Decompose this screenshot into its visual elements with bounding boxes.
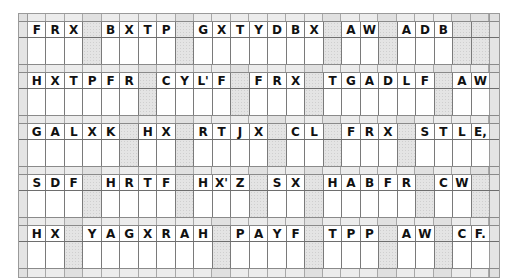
answer-cell[interactable] bbox=[157, 89, 175, 115]
answer-cell[interactable] bbox=[231, 242, 249, 268]
answer-cell[interactable] bbox=[213, 140, 231, 166]
answer-cell[interactable] bbox=[65, 191, 83, 217]
answer-cell[interactable] bbox=[324, 242, 342, 268]
answer-cell[interactable] bbox=[157, 191, 175, 217]
answer-cell[interactable] bbox=[250, 89, 268, 115]
answer-cell[interactable] bbox=[250, 140, 268, 166]
answer-cell[interactable] bbox=[28, 89, 46, 115]
answer-cell[interactable] bbox=[231, 38, 249, 64]
answer-cell[interactable] bbox=[65, 38, 83, 64]
answer-cell[interactable] bbox=[268, 38, 286, 64]
answer-cell[interactable] bbox=[102, 38, 120, 64]
answer-cell[interactable] bbox=[120, 242, 138, 268]
answer-cell[interactable] bbox=[361, 89, 379, 115]
answer-cell[interactable] bbox=[194, 89, 212, 115]
answer-cell[interactable] bbox=[472, 89, 489, 115]
answer-cell[interactable] bbox=[435, 38, 453, 64]
answer-cell[interactable] bbox=[139, 140, 157, 166]
answer-cell[interactable] bbox=[268, 89, 286, 115]
answer-cell[interactable] bbox=[83, 140, 101, 166]
answer-cell[interactable] bbox=[176, 242, 194, 268]
answer-cell[interactable] bbox=[342, 191, 360, 217]
answer-cell[interactable] bbox=[231, 140, 249, 166]
word-gap-cell bbox=[379, 242, 397, 268]
answer-cell[interactable] bbox=[342, 89, 360, 115]
answer-cell[interactable] bbox=[157, 38, 175, 64]
answer-cell[interactable] bbox=[102, 242, 120, 268]
answer-cell[interactable] bbox=[416, 89, 434, 115]
answer-cell[interactable] bbox=[250, 38, 268, 64]
answer-cell[interactable] bbox=[287, 89, 305, 115]
answer-cell[interactable] bbox=[83, 242, 101, 268]
answer-cell[interactable] bbox=[435, 140, 453, 166]
answer-cell[interactable] bbox=[287, 242, 305, 268]
answer-cell[interactable] bbox=[453, 242, 471, 268]
answer-cell[interactable] bbox=[139, 38, 157, 64]
answer-cell[interactable] bbox=[453, 191, 471, 217]
answer-cell[interactable] bbox=[287, 38, 305, 64]
answer-cell[interactable] bbox=[194, 242, 212, 268]
answer-cell[interactable] bbox=[157, 242, 175, 268]
answer-cell[interactable] bbox=[416, 38, 434, 64]
answer-cell[interactable] bbox=[324, 89, 342, 115]
answer-cell[interactable] bbox=[46, 140, 64, 166]
answer-cell[interactable] bbox=[102, 89, 120, 115]
answer-cell[interactable] bbox=[416, 242, 434, 268]
answer-cell[interactable] bbox=[194, 38, 212, 64]
answer-cell[interactable] bbox=[379, 140, 397, 166]
answer-cell[interactable] bbox=[46, 191, 64, 217]
answer-cell[interactable] bbox=[472, 140, 489, 166]
answer-cell[interactable] bbox=[46, 89, 64, 115]
answer-cell[interactable] bbox=[287, 191, 305, 217]
answer-cell[interactable] bbox=[250, 242, 268, 268]
answer-cell[interactable] bbox=[324, 191, 342, 217]
answer-cell[interactable] bbox=[305, 140, 323, 166]
answer-cell[interactable] bbox=[28, 140, 46, 166]
answer-cell[interactable] bbox=[231, 191, 249, 217]
answer-cell[interactable] bbox=[287, 140, 305, 166]
answer-cell[interactable] bbox=[65, 140, 83, 166]
answer-cell[interactable] bbox=[194, 191, 212, 217]
answer-cell[interactable] bbox=[83, 89, 101, 115]
answer-cell[interactable] bbox=[28, 242, 46, 268]
answer-cell[interactable] bbox=[305, 38, 323, 64]
answer-cell[interactable] bbox=[46, 38, 64, 64]
answer-cell[interactable] bbox=[65, 89, 83, 115]
answer-cell[interactable] bbox=[213, 191, 231, 217]
answer-cell[interactable] bbox=[361, 38, 379, 64]
answer-cell[interactable] bbox=[342, 38, 360, 64]
answer-cell[interactable] bbox=[453, 89, 471, 115]
answer-cell[interactable] bbox=[398, 191, 416, 217]
answer-cell[interactable] bbox=[213, 89, 231, 115]
answer-cell[interactable] bbox=[139, 191, 157, 217]
answer-cell[interactable] bbox=[268, 242, 286, 268]
answer-cell[interactable] bbox=[361, 242, 379, 268]
answer-cell[interactable] bbox=[28, 38, 46, 64]
answer-cell[interactable] bbox=[472, 242, 489, 268]
answer-cell[interactable] bbox=[120, 89, 138, 115]
answer-cell[interactable] bbox=[342, 242, 360, 268]
answer-cell[interactable] bbox=[176, 89, 194, 115]
answer-cell[interactable] bbox=[453, 140, 471, 166]
answer-cell[interactable] bbox=[416, 140, 434, 166]
answer-cell[interactable] bbox=[120, 38, 138, 64]
answer-cell[interactable] bbox=[398, 89, 416, 115]
answer-cell[interactable] bbox=[398, 242, 416, 268]
answer-cell[interactable] bbox=[102, 191, 120, 217]
answer-cell[interactable] bbox=[28, 191, 46, 217]
answer-cell[interactable] bbox=[342, 140, 360, 166]
answer-cell[interactable] bbox=[139, 242, 157, 268]
answer-cell[interactable] bbox=[379, 191, 397, 217]
answer-cell[interactable] bbox=[398, 38, 416, 64]
answer-cell[interactable] bbox=[194, 140, 212, 166]
answer-cell[interactable] bbox=[361, 140, 379, 166]
answer-cell[interactable] bbox=[435, 191, 453, 217]
answer-cell[interactable] bbox=[213, 38, 231, 64]
answer-cell[interactable] bbox=[102, 140, 120, 166]
answer-cell[interactable] bbox=[157, 140, 175, 166]
answer-cell[interactable] bbox=[379, 89, 397, 115]
answer-cell[interactable] bbox=[361, 191, 379, 217]
answer-cell[interactable] bbox=[268, 191, 286, 217]
answer-cell[interactable] bbox=[46, 242, 64, 268]
answer-cell[interactable] bbox=[120, 191, 138, 217]
